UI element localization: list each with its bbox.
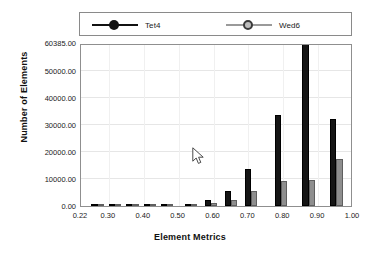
- x-axis-tick-label: 1.00: [332, 211, 372, 220]
- bar-wed6: [191, 204, 197, 206]
- legend-symbol-tet4-icon: [92, 20, 138, 30]
- gridline-horizontal: [81, 124, 351, 125]
- y-axis-tick-label: 40000.00: [2, 94, 76, 103]
- gridline-horizontal: [81, 97, 351, 98]
- gridline-horizontal: [81, 70, 351, 71]
- y-axis-tick-label: 20000.00: [2, 148, 76, 157]
- x-axis-title: Element Metrics: [0, 232, 380, 242]
- bar-wed6: [336, 159, 342, 206]
- legend-entry-tet4[interactable]: Tet4: [92, 13, 161, 37]
- y-axis-tick-label: 0.00: [2, 202, 76, 211]
- bar-wed6: [167, 204, 173, 206]
- gridline-horizontal: [81, 151, 351, 152]
- bar-wed6: [132, 204, 138, 206]
- bar-wed6: [115, 204, 121, 206]
- gridline-vertical: [318, 45, 319, 206]
- bar-wed6: [251, 191, 257, 206]
- gridline-vertical: [109, 45, 110, 206]
- legend-label-tet4: Tet4: [145, 21, 161, 30]
- y-axis-tick-label: 60385.00: [2, 39, 76, 48]
- y-axis-title: Number of Elements: [19, 17, 29, 177]
- y-axis-tick-label: 30000.00: [2, 121, 76, 130]
- bar-wed6: [231, 200, 237, 206]
- bar-wed6: [98, 204, 104, 206]
- bar-wed6: [211, 203, 217, 206]
- bar-wed6: [309, 180, 315, 206]
- legend-label-wed6: Wed6: [279, 21, 300, 30]
- gridline-vertical: [179, 45, 180, 206]
- chart-legend: Tet4 Wed6: [79, 12, 352, 36]
- legend-symbol-wed6-icon: [226, 20, 272, 30]
- gridline-vertical: [214, 45, 215, 206]
- bar-wed6: [281, 181, 287, 206]
- chart-figure: Tet4 Wed6 0.0010000.0020000.0030000.0040…: [0, 0, 380, 257]
- bar-wed6: [150, 204, 156, 206]
- legend-entry-wed6[interactable]: Wed6: [226, 13, 300, 37]
- y-axis-tick-label: 50000.00: [2, 67, 76, 76]
- y-axis-tick-label: 10000.00: [2, 175, 76, 184]
- gridline-vertical: [144, 45, 145, 206]
- plot-area: [80, 44, 352, 207]
